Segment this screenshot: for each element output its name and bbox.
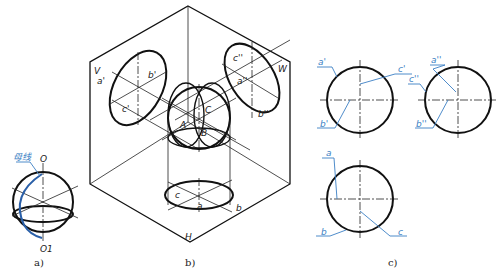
sphere-label-b: B (201, 128, 207, 138)
axis-top-label: O (40, 154, 47, 164)
front-label-a: a' (318, 57, 326, 67)
figure-c-views: a' c' b' a'' c'' b'' a b c (316, 55, 498, 268)
front-view: a' c' b' (317, 57, 412, 140)
top-label-b: b (321, 227, 327, 237)
top-label-c: c (398, 227, 403, 237)
side-label-b: b'' (416, 119, 427, 129)
h-label-b: b (236, 203, 242, 213)
side-label-c: c'' (409, 74, 419, 84)
top-view: a b c (316, 148, 407, 240)
axis-bottom-label: O1 (40, 244, 53, 254)
sphere-label-a: A (179, 120, 186, 130)
plane-h-label: H (185, 232, 192, 242)
w-label-b: b'' (258, 109, 269, 119)
v-label-b: b' (148, 70, 156, 80)
v-label-c: c' (122, 104, 129, 114)
figure-a-sphere: 母线 O O1 a) (12, 152, 78, 268)
plane-w-label: W (278, 64, 288, 74)
w-label-a: a'' (237, 76, 247, 86)
generatrix-label: 母线 (13, 152, 32, 162)
caption-b: b) (185, 257, 195, 268)
figure-b-cube: V W H a' b' c' a'' b'' c'' a b c A B C b… (90, 6, 291, 268)
top-label-a: a (326, 148, 332, 158)
side-label-a: a'' (431, 55, 441, 65)
h-label-a: a (197, 201, 203, 211)
side-view: a'' c'' b'' (408, 55, 498, 140)
v-label-a: a' (97, 76, 105, 86)
front-label-b: b' (320, 119, 328, 129)
w-label-c: c'' (233, 53, 243, 63)
plane-v-label: V (94, 66, 101, 76)
projection-diagram: 母线 O O1 a) (0, 0, 503, 275)
front-label-c: c' (398, 64, 405, 74)
h-label-c: c (175, 190, 180, 200)
caption-c: c) (388, 257, 398, 268)
sphere-label-c: C (205, 105, 212, 115)
caption-a: a) (34, 257, 44, 268)
